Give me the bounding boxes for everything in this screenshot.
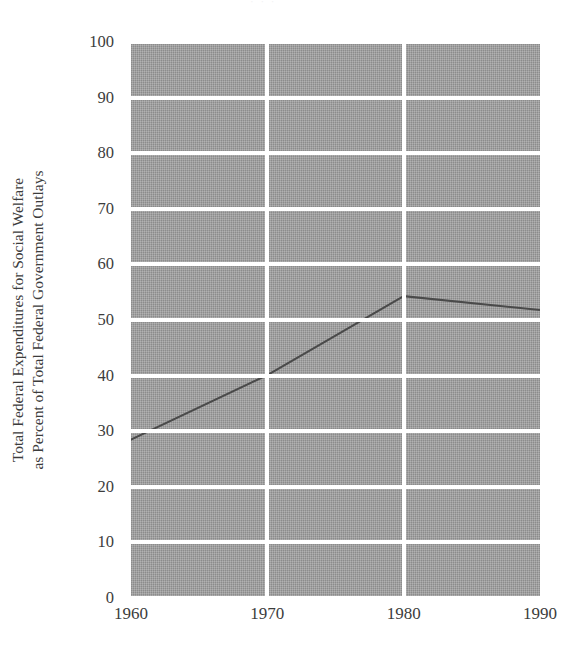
y-axis-tick-label: 100: [89, 32, 114, 52]
gridline-horizontal: [131, 485, 540, 489]
gridline-horizontal: [131, 207, 540, 211]
y-axis-tick-label: 30: [98, 421, 115, 441]
x-axis-tick-label: 1960: [114, 604, 148, 624]
gridline-horizontal: [131, 151, 540, 155]
y-axis-tick-label: 20: [98, 477, 115, 497]
y-axis-title-line-1: Total Federal Expenditures for Social We…: [8, 170, 28, 469]
y-axis-tick-label: 80: [98, 143, 115, 163]
y-axis-title: Total Federal Expenditures for Social We…: [0, 42, 56, 598]
y-axis-title-line-2: as Percent of Total Federal Government O…: [28, 170, 48, 469]
x-axis-tick-label: 1990: [523, 604, 557, 624]
gridline-horizontal: [131, 96, 540, 100]
gridline-horizontal: [131, 262, 540, 266]
y-axis-tick-label: 50: [98, 310, 115, 330]
chart-figure: · · · Total Federal Expenditures for Soc…: [0, 0, 569, 649]
gridline-horizontal: [131, 42, 540, 44]
x-axis-tick-label: 1980: [387, 604, 421, 624]
gridline-vertical: [265, 42, 269, 598]
gridline-horizontal: [131, 429, 540, 433]
y-axis-tick-labels: 1009080706050403020100: [60, 0, 122, 649]
y-axis-tick-label: 90: [98, 88, 115, 108]
gridline-horizontal: [131, 596, 540, 598]
y-axis-tick-label: 60: [98, 254, 115, 274]
gridline-horizontal: [131, 540, 540, 544]
x-axis-tick-label: 1970: [250, 604, 284, 624]
y-axis-tick-label: 40: [98, 366, 115, 386]
x-axis-tick-labels: 1960197019801990: [0, 604, 569, 638]
y-axis-tick-label: 70: [98, 199, 115, 219]
gridline-horizontal: [131, 374, 540, 378]
gridline-horizontal: [131, 318, 540, 322]
y-axis-tick-label: 10: [98, 532, 115, 552]
plot-area: [131, 42, 540, 598]
gridline-vertical: [402, 42, 406, 598]
page-bleed-text: · · ·: [250, 0, 569, 5]
